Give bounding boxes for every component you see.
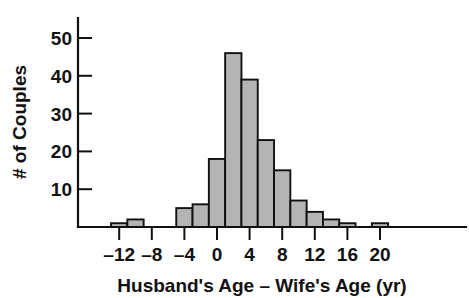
histogram-bar bbox=[258, 140, 274, 227]
x-ticks-group bbox=[119, 227, 380, 240]
chart-canvas: 1020304050 –12–8–4048121620 # of Couples… bbox=[0, 0, 469, 298]
histogram-bar bbox=[274, 170, 290, 227]
histogram-bar bbox=[307, 212, 323, 227]
x-tick-label: 16 bbox=[337, 244, 358, 265]
x-tick-label: 20 bbox=[369, 244, 390, 265]
histogram-bar bbox=[176, 208, 192, 227]
y-tick-label: 50 bbox=[51, 28, 72, 49]
x-tick-label: 8 bbox=[277, 244, 288, 265]
histogram-bar bbox=[241, 80, 257, 227]
x-tick-label: –4 bbox=[174, 244, 196, 265]
histogram-bar bbox=[290, 201, 306, 227]
x-tick-label: –12 bbox=[103, 244, 135, 265]
x-tick-labels-group: –12–8–4048121620 bbox=[103, 244, 390, 265]
y-tick-label: 40 bbox=[51, 66, 72, 87]
y-tick-label: 20 bbox=[51, 141, 72, 162]
y-ticks-group bbox=[78, 38, 92, 189]
y-tick-label: 10 bbox=[51, 179, 72, 200]
histogram-bar bbox=[127, 219, 143, 227]
histogram-bar bbox=[209, 159, 225, 227]
histogram-bar bbox=[193, 204, 209, 227]
histogram-figure: 1020304050 –12–8–4048121620 # of Couples… bbox=[0, 0, 469, 298]
x-tick-label: 4 bbox=[244, 244, 255, 265]
histogram-bar bbox=[225, 53, 241, 227]
x-axis-title: Husband's Age – Wife's Age (yr) bbox=[117, 275, 406, 296]
y-tick-label: 30 bbox=[51, 104, 72, 125]
x-tick-label: 12 bbox=[304, 244, 325, 265]
x-tick-label: –8 bbox=[141, 244, 162, 265]
histogram-bar bbox=[323, 219, 339, 227]
bars-group bbox=[111, 53, 388, 227]
y-axis-title: # of Couples bbox=[9, 65, 30, 179]
y-tick-labels-group: 1020304050 bbox=[51, 28, 72, 200]
x-tick-label: 0 bbox=[212, 244, 223, 265]
